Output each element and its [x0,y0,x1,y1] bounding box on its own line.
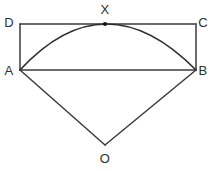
geometry-canvas [0,0,210,171]
label-point-c: C [198,16,208,29]
label-point-x: X [101,3,110,16]
label-point-o: O [100,152,110,165]
segment-AO [20,70,105,145]
arc-AXB [20,24,196,70]
point-marker-X [103,22,107,26]
label-point-b: B [199,64,208,77]
label-point-d: D [4,16,14,29]
label-point-a: A [5,64,14,77]
segment-BO [105,70,196,145]
geometry-diagram: A B C D X O [0,0,210,171]
